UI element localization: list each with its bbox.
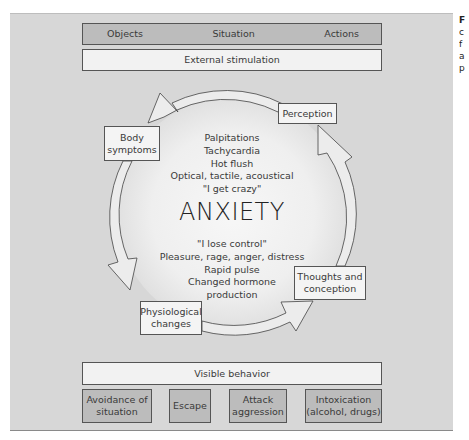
visible-behavior-box: Visible behavior <box>82 362 382 385</box>
symptom-line: Rapid pulse <box>132 264 332 277</box>
symptom-line: Tachycardia <box>132 145 332 158</box>
behavior-attack: Attack aggression <box>229 389 287 423</box>
anxiety-title: ANXIETY <box>132 198 332 226</box>
symptom-line: production <box>132 289 332 302</box>
behavior-line: Escape <box>173 400 207 412</box>
symptom-line: Palpitations <box>132 132 332 145</box>
behavior-line: Intoxication <box>306 394 380 406</box>
caption-fragment: F <box>459 14 469 26</box>
behavior-line: Avoidance of <box>86 394 147 406</box>
symptom-line: Hot flush <box>132 158 332 171</box>
node-physiological-line: Physiological <box>140 306 202 318</box>
behavior-escape: Escape <box>169 389 211 423</box>
caption-fragment: p <box>459 62 469 74</box>
caption-fragment: f <box>459 38 469 50</box>
behavior-line: (alcohol, drugs) <box>306 406 380 418</box>
behavior-line: situation <box>86 406 147 418</box>
visible-behavior-label: Visible behavior <box>194 368 270 380</box>
caption-fragment: a <box>459 50 469 62</box>
truncated-caption: F c f a p <box>459 14 469 74</box>
behavior-intoxication: Intoxication (alcohol, drugs) <box>305 389 382 423</box>
behavior-line: Attack <box>232 394 284 406</box>
behavior-line: aggression <box>232 406 284 418</box>
symptom-line: Pleasure, rage, anger, distress <box>132 251 332 264</box>
caption-fragment: c <box>459 26 469 38</box>
node-physiological-line: changes <box>140 318 202 330</box>
symptom-line: "I lose control" <box>132 238 332 251</box>
symptom-line: Changed hormone <box>132 276 332 289</box>
node-perception: Perception <box>278 103 337 124</box>
symptoms-upper-list: Palpitations Tachycardia Hot flush Optic… <box>132 132 332 196</box>
symptom-line: "I get crazy" <box>132 183 332 196</box>
behavior-avoidance: Avoidance of situation <box>82 389 152 423</box>
symptom-line: Optical, tactile, acoustical <box>132 170 332 183</box>
symptoms-lower-list: "I lose control" Pleasure, rage, anger, … <box>132 238 332 302</box>
node-perception-label: Perception <box>282 108 332 120</box>
node-physiological-changes: Physiological changes <box>140 301 202 335</box>
